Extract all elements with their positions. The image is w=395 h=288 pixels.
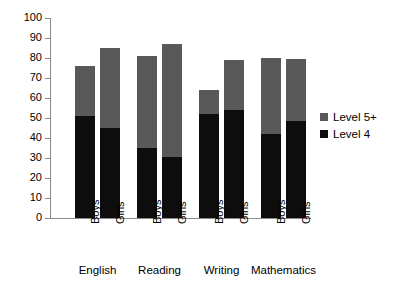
bar-segment-level5plus xyxy=(137,56,157,148)
bar-mathematics-boys xyxy=(261,18,281,218)
y-axis-tick-labels: 0102030405060708090100 xyxy=(0,0,42,288)
x-sub-label-girls: Girls xyxy=(115,201,126,224)
bar-segment-level5plus xyxy=(199,90,219,114)
bar-segment-level5plus xyxy=(162,44,182,157)
plot-area xyxy=(50,18,310,218)
bar-reading-boys xyxy=(137,18,157,218)
y-tick-label: 20 xyxy=(0,172,42,183)
x-sub-label-boys: Boys xyxy=(152,200,163,224)
y-tick-label: 60 xyxy=(0,92,42,103)
x-sub-label-boys: Boys xyxy=(214,200,225,224)
y-tick-mark xyxy=(45,218,50,219)
x-sub-label-boys: Boys xyxy=(90,200,101,224)
legend-swatch-level5plus xyxy=(320,113,328,121)
x-sub-label-girls: Girls xyxy=(301,201,312,224)
bar-reading-girls xyxy=(162,18,182,218)
y-tick-label: 100 xyxy=(0,12,42,23)
y-tick-label: 90 xyxy=(0,32,42,43)
y-tick-label: 40 xyxy=(0,132,42,143)
bar-segment-level5plus xyxy=(100,48,120,128)
y-tick-label: 80 xyxy=(0,52,42,63)
legend-item-level4: Level 4 xyxy=(320,125,377,142)
x-group-label-mathematics: Mathematics xyxy=(239,264,329,276)
legend-label-level5plus: Level 5+ xyxy=(333,111,377,123)
bar-writing-girls xyxy=(224,18,244,218)
y-tick-label: 10 xyxy=(0,192,42,203)
x-sub-label-girls: Girls xyxy=(177,201,188,224)
legend-swatch-level4 xyxy=(320,130,328,138)
x-sub-label-boys: Boys xyxy=(276,200,287,224)
legend-label-level4: Level 4 xyxy=(333,128,370,140)
chart-container: 0102030405060708090100 BoysGirlsBoysGirl… xyxy=(0,0,395,288)
bar-segment-level5plus xyxy=(286,59,306,121)
legend-item-level5plus: Level 5+ xyxy=(320,108,377,125)
chart-legend: Level 5+ Level 4 xyxy=(320,108,377,142)
bar-english-boys xyxy=(75,18,95,218)
bar-segment-level5plus xyxy=(75,66,95,116)
bar-writing-boys xyxy=(199,18,219,218)
y-tick-label: 0 xyxy=(0,212,42,223)
x-sub-label-girls: Girls xyxy=(239,201,250,224)
y-tick-label: 30 xyxy=(0,152,42,163)
bar-english-girls xyxy=(100,18,120,218)
y-tick-label: 50 xyxy=(0,112,42,123)
y-tick-label: 70 xyxy=(0,72,42,83)
bar-mathematics-girls xyxy=(286,18,306,218)
bar-segment-level5plus xyxy=(261,58,281,134)
bar-segment-level5plus xyxy=(224,60,244,110)
